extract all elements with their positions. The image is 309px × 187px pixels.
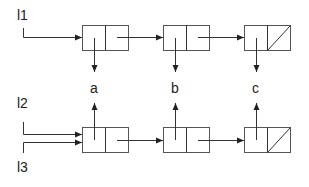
variable-label-l3: l3	[17, 159, 28, 175]
bottom-cons-cell-3-nil	[245, 128, 291, 153]
diagram-canvas: l1 l2 l3 a b c	[0, 0, 309, 187]
value-label-b: b	[171, 80, 179, 96]
top-cons-cell-3-nil	[245, 26, 291, 51]
value-label-c: c	[252, 80, 259, 96]
l2-pointer-arrow	[24, 122, 83, 135]
value-label-a: a	[90, 80, 98, 96]
variable-label-l1: l1	[17, 7, 28, 23]
variable-label-l2: l2	[17, 95, 28, 111]
l1-pointer-arrow	[24, 28, 83, 38]
l3-pointer-arrow	[24, 143, 83, 154]
linked-list-diagram: l1 l2 l3 a b c	[0, 0, 309, 187]
